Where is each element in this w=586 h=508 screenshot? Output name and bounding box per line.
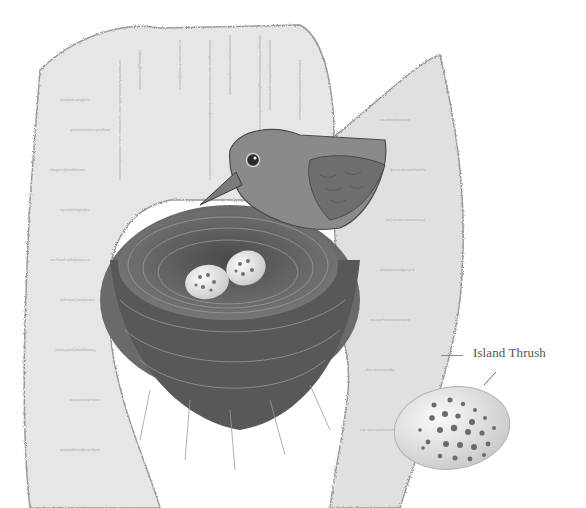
species-label: Island Thrush xyxy=(473,345,546,361)
label-leader-line xyxy=(441,355,463,356)
nest-illustration xyxy=(0,0,586,508)
nest xyxy=(100,205,360,470)
egg-pointer-line xyxy=(484,372,496,385)
